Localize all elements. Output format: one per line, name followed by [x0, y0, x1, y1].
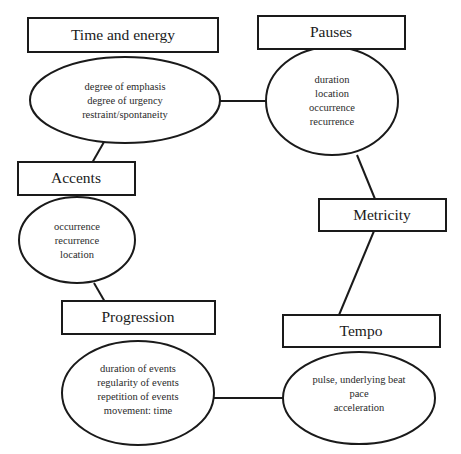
connector-time-and-energy-to-accents: [92, 142, 104, 163]
diagram-canvas: degree of emphasis degree of urgency res…: [0, 0, 461, 454]
node-progression[interactable]: duration of events regularity of events …: [62, 301, 215, 445]
node-accents[interactable]: occurrence recurrence location Accents: [18, 162, 135, 283]
ellipse-pauses: [266, 47, 398, 155]
connector-pauses-to-metricity: [357, 155, 375, 199]
box-label-time-and-energy: Time and energy: [71, 26, 175, 43]
node-time-and-energy[interactable]: degree of emphasis degree of urgency res…: [28, 18, 220, 143]
detail-text: duration of events: [100, 363, 176, 374]
node-metricity[interactable]: Metricity: [319, 199, 446, 231]
detail-text: regularity of events: [97, 377, 179, 388]
detail-text: movement: time: [104, 405, 173, 416]
detail-text: recurrence: [55, 235, 100, 246]
detail-text: location: [315, 88, 350, 99]
connector-metricity-to-tempo: [339, 231, 374, 315]
box-label-pauses: Pauses: [310, 23, 352, 40]
detail-text: degree of emphasis: [84, 81, 165, 92]
box-label-accents: Accents: [51, 169, 101, 186]
detail-text: occurrence: [309, 102, 355, 113]
detail-text: recurrence: [310, 116, 355, 127]
detail-text: restraint/spontaneity: [82, 109, 168, 120]
box-label-progression: Progression: [101, 308, 174, 325]
detail-text: pace: [349, 388, 369, 399]
node-tempo[interactable]: pulse, underlying beat pace acceleration…: [283, 315, 440, 444]
detail-text: occurrence: [54, 221, 100, 232]
detail-text: acceleration: [334, 402, 385, 413]
connector-accents-to-progression: [94, 283, 105, 302]
detail-text: location: [60, 249, 95, 260]
box-label-metricity: Metricity: [353, 206, 411, 223]
box-label-tempo: Tempo: [340, 322, 383, 339]
detail-text: degree of urgency: [87, 95, 163, 106]
detail-text: duration: [315, 74, 351, 85]
concept-map-diagram: degree of emphasis degree of urgency res…: [0, 0, 461, 454]
detail-text: repetition of events: [97, 391, 178, 402]
node-pauses[interactable]: duration location occurrence recurrence …: [258, 16, 405, 155]
detail-text: pulse, underlying beat: [312, 374, 405, 385]
